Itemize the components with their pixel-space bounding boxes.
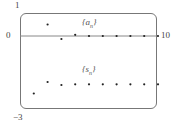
plot-area	[0, 0, 174, 127]
data-point	[143, 83, 145, 85]
data-point	[157, 83, 159, 85]
data-point	[116, 83, 118, 85]
data-point	[129, 83, 131, 85]
data-point	[47, 23, 49, 25]
data-point	[74, 34, 76, 36]
data-point	[157, 35, 159, 37]
data-point	[143, 35, 145, 37]
data-point	[88, 83, 90, 85]
data-point	[74, 83, 76, 85]
data-point	[116, 35, 118, 37]
data-point	[47, 81, 49, 83]
data-point	[60, 84, 62, 86]
data-point	[102, 35, 104, 37]
data-point	[102, 83, 104, 85]
data-point	[33, 92, 35, 94]
data-points	[33, 23, 159, 94]
data-point	[88, 35, 90, 37]
data-point	[129, 35, 131, 37]
data-point	[60, 38, 62, 40]
